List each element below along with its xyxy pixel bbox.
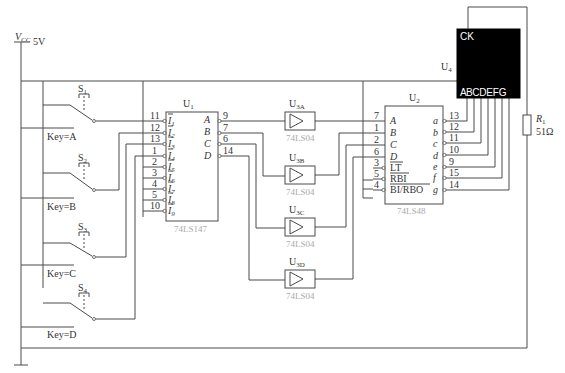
svg-text:12: 12 xyxy=(449,121,459,132)
svg-text:74LS04: 74LS04 xyxy=(286,187,315,197)
key-a-label: Key=A xyxy=(47,131,77,142)
svg-text:9: 9 xyxy=(223,110,228,121)
svg-text:3: 3 xyxy=(374,157,379,168)
svg-text:10: 10 xyxy=(449,144,459,155)
svg-text:2: 2 xyxy=(374,134,379,145)
vcc-value: 5V xyxy=(33,36,46,47)
svg-text:74LS48: 74LS48 xyxy=(397,206,426,216)
svg-text:c: c xyxy=(433,138,438,149)
svg-text:1: 1 xyxy=(152,145,157,156)
svg-text:LT: LT xyxy=(390,162,401,173)
svg-text:74LS04: 74LS04 xyxy=(286,291,315,301)
svg-text:74LS04: 74LS04 xyxy=(286,239,315,249)
svg-text:g: g xyxy=(433,184,438,195)
svg-text:7: 7 xyxy=(223,122,228,133)
svg-text:6: 6 xyxy=(223,133,228,144)
svg-text:7: 7 xyxy=(374,110,379,121)
svg-text:51Ω: 51Ω xyxy=(536,126,553,137)
svg-text:15: 15 xyxy=(449,167,459,178)
svg-text:e: e xyxy=(433,161,438,172)
u3a-inverter: U3A 74LS04 xyxy=(285,98,315,143)
svg-text:U3A: U3A xyxy=(289,98,305,111)
u4-seven-segment-display: CK A B C D E F G U4 xyxy=(441,29,520,98)
svg-text:U2: U2 xyxy=(409,92,420,105)
u4-segments-label: A B C D E F G xyxy=(460,87,507,98)
svg-text:BI/RBO: BI/RBO xyxy=(390,184,423,195)
svg-text:13: 13 xyxy=(449,110,459,121)
svg-text:D: D xyxy=(203,150,212,161)
u3b-inverter: U3B 74LS04 xyxy=(285,152,315,197)
svg-text:U3B: U3B xyxy=(289,152,305,165)
key-b-label: Key=B xyxy=(47,201,76,212)
svg-text:14: 14 xyxy=(223,145,233,156)
u2-74ls48: U2 74LS48 7 1 2 6 3 5 4 A B C D LT RBI B… xyxy=(373,92,459,216)
svg-text:9: 9 xyxy=(449,156,454,167)
u1-74ls147: U1 74LS147 11 12 13 1 2 3 4 5 10 I1 I2 I… xyxy=(150,98,233,234)
svg-text:B: B xyxy=(390,127,396,138)
svg-text:U3D: U3D xyxy=(289,256,305,269)
resistor-r1: R1 51Ω xyxy=(523,113,553,137)
u4-ck-label: CK xyxy=(460,31,474,42)
svg-text:6: 6 xyxy=(374,146,379,157)
svg-text:12: 12 xyxy=(150,122,160,133)
svg-text:11: 11 xyxy=(449,132,459,143)
vcc-source: VCC 5V xyxy=(14,31,46,81)
svg-text:5: 5 xyxy=(152,189,157,200)
svg-text:C: C xyxy=(204,138,211,149)
svg-text:5: 5 xyxy=(374,168,379,179)
svg-text:A: A xyxy=(203,114,211,125)
svg-text:3: 3 xyxy=(152,167,157,178)
u4-ref: U4 xyxy=(441,61,452,74)
svg-text:1: 1 xyxy=(374,122,379,133)
svg-text:A: A xyxy=(389,115,397,126)
svg-text:11: 11 xyxy=(150,110,160,121)
svg-text:R1: R1 xyxy=(535,113,546,126)
u1-ref: U1 xyxy=(183,98,194,111)
svg-text:D: D xyxy=(389,151,398,162)
u3c-inverter: U3C 74LS04 xyxy=(285,204,315,249)
svg-text:13: 13 xyxy=(150,133,160,144)
u3d-inverter: U3D 74LS04 xyxy=(285,256,315,301)
key-c-label: Key=C xyxy=(47,268,76,279)
svg-text:C: C xyxy=(390,139,397,150)
svg-text:4: 4 xyxy=(374,179,379,190)
svg-text:b: b xyxy=(433,127,438,138)
svg-text:4: 4 xyxy=(152,178,157,189)
svg-text:14: 14 xyxy=(449,179,459,190)
circuit-diagram: VCC 5V Key=A Key=B Key=C Key=D S1 S2 xyxy=(0,0,565,373)
svg-text:a: a xyxy=(433,115,438,126)
svg-text:U3C: U3C xyxy=(289,204,305,217)
svg-text:10: 10 xyxy=(150,200,160,211)
svg-text:B: B xyxy=(204,126,210,137)
u1-part: 74LS147 xyxy=(174,224,208,234)
switch-s4[interactable]: S4 xyxy=(43,156,163,321)
svg-text:2: 2 xyxy=(152,156,157,167)
switch-s1[interactable]: S1 xyxy=(43,83,163,123)
svg-text:74LS04: 74LS04 xyxy=(286,133,315,143)
svg-text:RBI: RBI xyxy=(390,173,407,184)
key-d-label: Key=D xyxy=(47,329,77,340)
